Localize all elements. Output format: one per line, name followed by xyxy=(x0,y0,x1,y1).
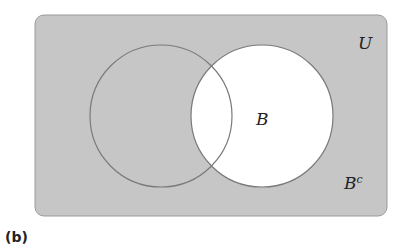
universe-label: U xyxy=(358,33,373,53)
complement-label-superscript: c xyxy=(357,173,363,186)
complement-label-base: B xyxy=(343,173,357,193)
figure-caption: (b) xyxy=(5,229,28,245)
venn-diagram: U B Bc xyxy=(0,0,403,249)
set-b-label: B xyxy=(255,109,269,129)
